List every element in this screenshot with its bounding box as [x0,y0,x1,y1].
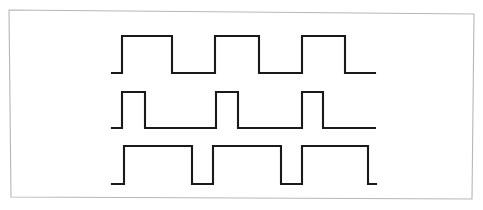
waveform-figure [0,0,483,210]
waveform-trace-bottom [112,146,376,184]
waveform-trace-top [112,36,375,73]
figure-border-frame [9,10,474,199]
waveform-trace-middle [112,92,375,128]
waveform-diagram [0,0,483,210]
